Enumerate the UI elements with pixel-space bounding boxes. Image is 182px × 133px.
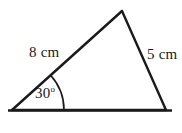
angle-value: 30 [35, 85, 50, 101]
side-label-right: 5 cm [147, 47, 177, 62]
angle-label: 30o [35, 86, 55, 101]
triangle-side-left [12, 11, 122, 110]
triangle-drawing [0, 0, 182, 133]
geometry-figure: 8 cm 5 cm 30o [0, 0, 182, 133]
side-label-left: 8 cm [29, 45, 59, 60]
degree-symbol: o [50, 84, 55, 94]
